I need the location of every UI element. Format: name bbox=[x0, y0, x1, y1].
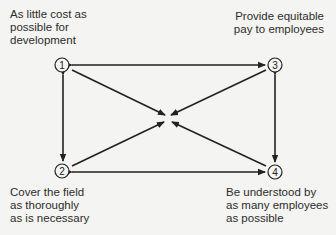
edge-3-center-arrow bbox=[171, 70, 266, 115]
node-3: 3 bbox=[268, 58, 282, 72]
node-4-number: 4 bbox=[272, 167, 278, 178]
diagram-canvas: 1 2 3 4 bbox=[0, 0, 336, 235]
node-2: 2 bbox=[55, 164, 69, 178]
edge-4-center-arrow bbox=[172, 122, 266, 166]
node-1-number: 1 bbox=[59, 60, 65, 71]
edge-1-center-arrow bbox=[72, 70, 165, 115]
edge-2-center-arrow bbox=[72, 122, 164, 166]
node-3-number: 3 bbox=[272, 60, 278, 71]
node-4: 4 bbox=[268, 165, 282, 179]
node-1: 1 bbox=[55, 58, 69, 72]
node-2-number: 2 bbox=[59, 166, 65, 177]
